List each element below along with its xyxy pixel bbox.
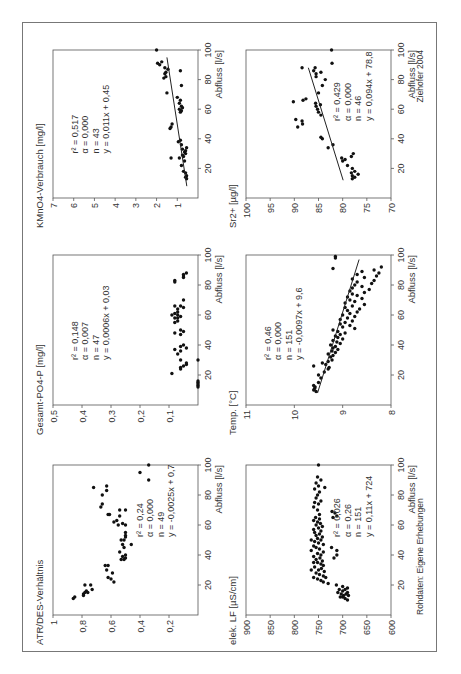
data-point: [314, 523, 317, 526]
data-point: [322, 543, 325, 546]
data-point: [316, 508, 319, 511]
y-tick-label: 80: [338, 203, 348, 213]
data-point: [322, 574, 325, 577]
data-point: [164, 71, 167, 74]
data-point: [176, 319, 179, 322]
x-tick-label: 100: [396, 247, 406, 262]
data-point: [180, 164, 183, 167]
data-point: [326, 146, 329, 149]
data-point: [317, 91, 320, 94]
data-point: [173, 316, 176, 319]
data-point: [182, 364, 185, 367]
stat-line: y = -0,0097x + 9,6: [294, 287, 304, 360]
data-point: [319, 562, 322, 565]
data-point: [355, 294, 358, 297]
data-point: [363, 291, 366, 294]
data-point: [310, 549, 313, 552]
data-point: [360, 297, 363, 300]
data-point: [319, 478, 322, 481]
y-tick-label: 900: [242, 620, 252, 635]
data-point: [335, 340, 338, 343]
data-point: [353, 170, 356, 173]
data-point: [318, 513, 321, 516]
data-point: [322, 550, 325, 553]
x-axis-label: Abfluss [l/s]: [406, 255, 417, 304]
chart-elek_lf: 90085080075070065060020406080100elek. LF…: [227, 457, 417, 645]
stat-line: r² = 0,24: [135, 503, 145, 537]
x-tick-label: 80: [396, 75, 406, 85]
data-point: [179, 304, 182, 307]
data-point: [185, 361, 188, 364]
data-point: [334, 351, 337, 354]
data-point: [380, 265, 383, 268]
data-point: [108, 513, 111, 516]
data-point: [338, 588, 341, 591]
data-point: [169, 156, 172, 159]
data-point: [105, 489, 108, 492]
data-point: [318, 490, 321, 493]
data-point: [101, 493, 104, 496]
y-tick-label: 750: [314, 620, 324, 635]
x-tick-label: 80: [203, 490, 213, 500]
data-point: [346, 309, 349, 312]
data-point: [313, 501, 316, 504]
data-point: [318, 547, 321, 550]
y-tick-label: 2: [152, 203, 162, 208]
stat-line: α = 0,26: [343, 504, 353, 537]
x-tick-label: 100: [396, 42, 406, 57]
data-point: [330, 546, 333, 549]
y-tick-label: 11: [242, 410, 252, 419]
data-point: [119, 558, 122, 561]
data-point: [312, 576, 315, 579]
data-point: [372, 268, 375, 271]
data-point: [318, 517, 321, 520]
x-tick-label: 40: [396, 134, 406, 144]
x-tick-label: 20: [396, 370, 406, 380]
data-point: [176, 96, 179, 99]
data-point: [169, 125, 172, 128]
data-point: [319, 579, 322, 582]
data-point: [316, 108, 319, 111]
data-point: [124, 534, 127, 537]
x-tick-label: 20: [203, 580, 213, 590]
scatter-grid: 10,80,60,40,220406080100ATR/DES-Verhältn…: [23, 23, 438, 653]
data-point: [318, 556, 321, 559]
data-point: [321, 84, 324, 87]
data-point: [319, 538, 322, 541]
data-point: [360, 285, 363, 288]
data-point: [173, 331, 176, 334]
data-point: [316, 520, 319, 523]
data-point: [312, 544, 315, 547]
data-point: [316, 537, 319, 540]
data-point: [170, 313, 173, 316]
chart-atr_des: 10,80,60,40,220406080100ATR/DES-Verhältn…: [34, 457, 224, 645]
data-point: [316, 493, 319, 496]
data-point: [346, 164, 349, 167]
data-point: [118, 508, 121, 511]
data-point: [179, 366, 182, 369]
x-tick-label: 40: [396, 550, 406, 560]
y-tick-label: 0,4: [78, 410, 88, 423]
data-point: [319, 553, 322, 556]
data-point: [173, 312, 176, 315]
data-point: [312, 561, 315, 564]
x-tick-label: 20: [396, 580, 406, 590]
data-point: [304, 97, 307, 100]
x-tick-label: 80: [203, 280, 213, 290]
x-tick-label: 60: [396, 520, 406, 530]
data-point: [310, 538, 313, 541]
data-point: [147, 463, 150, 466]
data-point: [312, 505, 315, 508]
data-point: [351, 174, 354, 177]
y-tick-label: 0,2: [165, 620, 175, 633]
y-tick-label: 650: [362, 620, 372, 635]
data-point: [314, 72, 317, 75]
data-point: [316, 577, 319, 580]
data-point: [147, 478, 150, 481]
data-point: [372, 279, 375, 282]
data-point: [334, 345, 337, 348]
data-point: [292, 100, 295, 103]
data-point: [336, 591, 339, 594]
data-point: [173, 304, 176, 307]
data-point: [105, 568, 108, 571]
